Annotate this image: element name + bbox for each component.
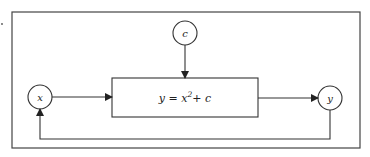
equation-suffix: + c [192,92,211,105]
equation-prefix: y = x [158,92,188,105]
stray-dot [1,23,3,25]
diagram-canvas: y = x2+ c c x y [0,0,370,157]
node-x-label: x [37,92,43,103]
equation-label: y = x2+ c [158,90,211,105]
node-y-label: y [326,93,333,104]
node-c-label: c [182,28,188,39]
